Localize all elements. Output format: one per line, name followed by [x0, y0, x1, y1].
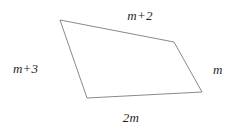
side-label-left: m+3	[13, 62, 38, 75]
side-label-right: m	[213, 63, 223, 76]
side-label-top: m+2	[0, 9, 240, 22]
quadrilateral-outline	[60, 20, 202, 98]
side-label-bottom: 2m	[0, 111, 240, 124]
geometry-figure: m+2 m+3 m 2m	[0, 0, 240, 132]
